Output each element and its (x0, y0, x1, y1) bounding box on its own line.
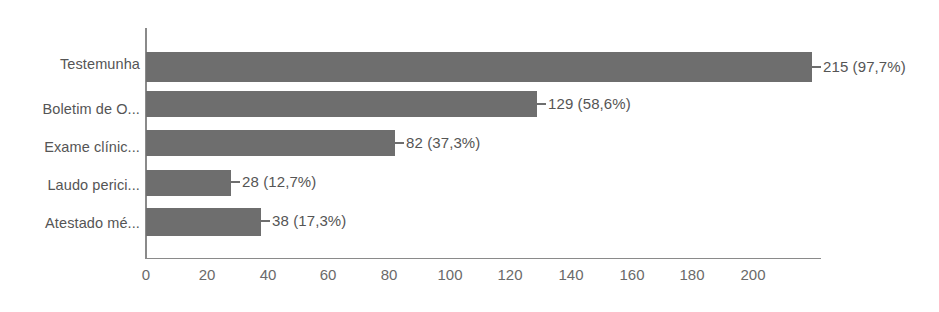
x-tick-label-200: 200 (733, 266, 773, 283)
x-tick-label-140: 140 (551, 266, 591, 283)
x-tick-label-160: 160 (612, 266, 652, 283)
x-tick-label-80: 80 (369, 266, 409, 283)
value-label-testemunha: 215 (97,7%) (823, 58, 906, 75)
category-label-testemunha: Testemunha (60, 56, 140, 72)
x-tick-label-120: 120 (490, 266, 530, 283)
category-label-exame-clinic: Exame clínic... (44, 139, 140, 155)
value-label-atestado-me: 38 (17,3%) (272, 212, 346, 229)
leader-line-laudo-perici (231, 181, 240, 183)
leader-line-testemunha (812, 66, 821, 68)
category-label-laudo-perici: Laudo perici... (47, 177, 140, 193)
x-axis-line (145, 258, 821, 260)
x-tick-label-180: 180 (672, 266, 712, 283)
bar-boletim-de-o (146, 91, 537, 117)
x-tick-label-20: 20 (187, 266, 227, 283)
x-tick-label-60: 60 (308, 266, 348, 283)
category-label-boletim-de-o: Boletim de O... (43, 101, 140, 117)
leader-line-exame-clinic (395, 142, 404, 144)
bar-laudo-perici (146, 170, 231, 196)
horizontal-bar-chart: Testemunha Boletim de O... Exame clínic.… (0, 0, 939, 312)
leader-line-atestado-me (261, 220, 270, 222)
value-label-laudo-perici: 28 (12,7%) (242, 173, 316, 190)
value-label-boletim-de-o: 129 (58,6%) (548, 95, 631, 112)
bar-testemunha (146, 52, 812, 82)
bar-atestado-me (146, 208, 261, 236)
x-tick-label-40: 40 (248, 266, 288, 283)
category-label-atestado-me: Atestado mé... (45, 215, 140, 231)
value-label-exame-clinic: 82 (37,3%) (406, 134, 480, 151)
leader-line-boletim-de-o (537, 103, 546, 105)
bar-exame-clinic (146, 130, 395, 156)
x-tick-label-0: 0 (126, 266, 166, 283)
x-tick-label-100: 100 (430, 266, 470, 283)
